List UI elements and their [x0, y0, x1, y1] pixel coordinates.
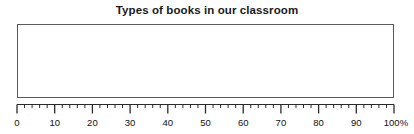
axis-tick-group [17, 105, 394, 114]
axis-tick-label: 10 [49, 117, 60, 129]
x-axis: 0102030405060708090100% [17, 104, 394, 134]
axis-tick-label: 100% [384, 117, 408, 129]
axis-tick-label: 30 [125, 117, 136, 129]
axis-tick-label: 80 [313, 117, 324, 129]
axis-tick-label: 60 [238, 117, 249, 129]
axis-tick-label: 20 [87, 117, 98, 129]
bar-chart-figure: Types of books in our classroom 01020304… [0, 0, 414, 134]
axis-tick-label: 40 [163, 117, 174, 129]
plot-area [17, 24, 394, 98]
axis-tick-label: 70 [276, 117, 287, 129]
axis-tick-label: 90 [351, 117, 362, 129]
axis-ruler-icon [9, 104, 402, 118]
axis-tick-label: 0 [14, 117, 19, 129]
chart-title: Types of books in our classroom [0, 3, 414, 17]
axis-tick-labels: 0102030405060708090100% [17, 117, 394, 131]
axis-tick-label: 50 [200, 117, 211, 129]
